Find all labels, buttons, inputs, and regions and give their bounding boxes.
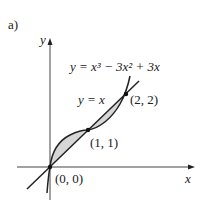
x-axis-arrow-icon xyxy=(188,165,195,170)
line-equation-label: y = x xyxy=(78,93,105,106)
diagram-canvas xyxy=(0,0,210,208)
y-axis-label: y xyxy=(40,33,46,46)
x-axis-label: x xyxy=(185,172,191,185)
y-axis-arrow-icon xyxy=(48,38,53,45)
point-origin xyxy=(48,165,52,169)
point-2-2 xyxy=(124,92,128,96)
point-1-1 xyxy=(86,128,90,132)
point-label-origin: (0, 0) xyxy=(55,172,83,185)
point-label-1-1: (1, 1) xyxy=(90,136,118,149)
cubic-equation-label: y = x³ − 3x² + 3x xyxy=(70,60,160,73)
panel-label: a) xyxy=(8,18,18,31)
point-label-2-2: (2, 2) xyxy=(130,93,158,106)
